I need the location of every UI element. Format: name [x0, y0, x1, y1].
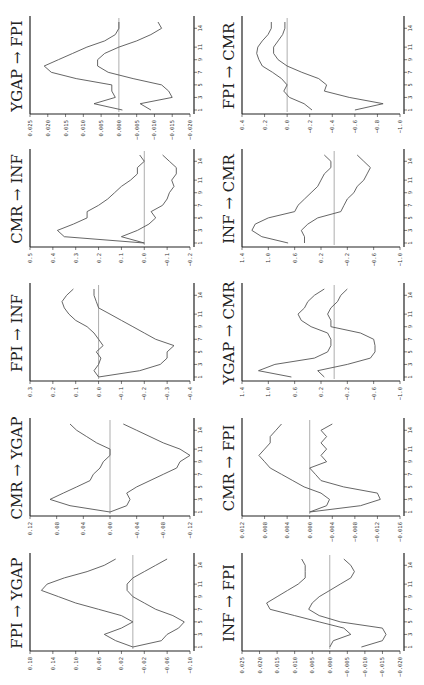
value-tick-label: −0.3: [164, 387, 170, 400]
irf-upper-band: [50, 424, 110, 512]
period-tick-label: 7: [197, 338, 203, 341]
panel-title: YGAP → CMR: [220, 281, 238, 386]
period-tick-label: 5: [407, 620, 413, 623]
period-tick-label: 14: [407, 24, 413, 31]
irf-panel: FPI → YGAP0.180.140.100.060.02−0.02−0.06…: [8, 553, 203, 674]
value-tick-label: 0.2: [262, 120, 268, 130]
period-tick-label: 9: [197, 58, 203, 61]
value-tick-label: 0.12: [27, 522, 33, 535]
value-tick-label: −0.015: [169, 120, 175, 140]
value-tick-label: 0.6: [292, 253, 298, 263]
period-tick-label: 9: [197, 595, 203, 598]
period-tick-label: 11: [407, 311, 413, 318]
period-tick-label: 5: [197, 620, 203, 623]
period-tick-label: 9: [407, 325, 413, 328]
value-tick-label: 0.00: [107, 522, 113, 535]
irf-panel: CMR → YGAP0.120.080.040.00−0.04−0.08−0.1…: [8, 416, 203, 538]
period-tick-label: 5: [197, 216, 203, 219]
value-tick-label: 0.1: [118, 253, 124, 263]
period-tick-label: 14: [407, 426, 413, 433]
period-tick-label: 9: [407, 460, 413, 463]
value-tick-label: −0.012: [374, 522, 380, 542]
value-tick-label: −0.010: [151, 120, 157, 140]
period-tick-label: 7: [407, 71, 413, 74]
period-tick-label: 3: [197, 229, 203, 232]
period-tick-label: 3: [407, 229, 413, 232]
irf-lower-band: [318, 289, 375, 377]
irf-panel: CMR → FPI0.0120.0080.0040.000−0.004−0.00…: [220, 418, 413, 542]
period-tick-label: 14: [197, 561, 203, 568]
value-tick-label: 1.0: [265, 253, 271, 263]
period-tick-label: 11: [197, 311, 203, 318]
period-tick-label: 14: [197, 291, 203, 298]
irf-upper-band: [267, 559, 351, 647]
value-tick-label: −0.020: [397, 657, 403, 677]
value-tick-label: 0.005: [309, 657, 315, 674]
value-tick-label: −0.6: [352, 120, 358, 133]
period-tick-label: 1: [407, 108, 413, 111]
period-tick-label: 1: [197, 645, 203, 648]
value-tick-label: 0.2: [318, 253, 324, 263]
irf-upper-band: [259, 289, 331, 377]
period-tick-label: 14: [197, 426, 203, 433]
period-tick-label: 1: [197, 108, 203, 111]
value-tick-label: −0.2: [344, 253, 350, 266]
period-tick-label: 11: [407, 581, 413, 588]
period-tick-label: 11: [197, 446, 203, 453]
period-tick-label: 1: [197, 375, 203, 378]
value-tick-label: 0.025: [27, 120, 33, 137]
period-tick-label: 14: [407, 157, 413, 164]
period-tick-label: 7: [197, 473, 203, 476]
value-tick-label: −1.0: [397, 120, 403, 133]
period-tick-label: 3: [407, 96, 413, 99]
value-tick-label: 0.1: [73, 387, 79, 397]
value-tick-label: 0.000: [116, 120, 122, 137]
irf-panel: INF → FPI0.0250.0200.0150.0100.0050.000−…: [220, 553, 413, 677]
period-tick-label: 5: [407, 485, 413, 488]
value-tick-label: 0.0: [284, 120, 290, 130]
value-tick-label: −0.008: [352, 522, 358, 542]
irf-lower-band: [94, 289, 174, 377]
period-tick-label: 3: [197, 96, 203, 99]
period-tick-label: 14: [407, 291, 413, 298]
period-tick-label: 5: [407, 83, 413, 86]
irf-panel: CMR → INF0.50.40.30.20.10.0−0.1−0.213579…: [8, 149, 203, 266]
period-tick-label: 1: [407, 241, 413, 244]
period-tick-label: 7: [197, 608, 203, 611]
value-tick-label: −0.06: [164, 657, 170, 674]
period-tick-label: 9: [407, 191, 413, 194]
irf-lower-band: [121, 155, 176, 243]
panel-title: YGAP → FPI: [8, 20, 26, 112]
value-tick-label: 0.08: [54, 522, 60, 535]
irf-panel: YGAP → FPI0.0250.0200.0150.0100.0050.000…: [8, 16, 203, 140]
irf-lower-band: [309, 559, 386, 647]
value-tick-label: 1.4: [239, 386, 245, 397]
value-tick-label: 0.2: [96, 253, 102, 263]
period-tick-label: 11: [407, 446, 413, 453]
irf-upper-band: [41, 559, 132, 647]
value-tick-label: 0.015: [63, 120, 69, 137]
value-tick-label: 0.3: [73, 253, 79, 263]
period-tick-label: 7: [407, 338, 413, 341]
panel-title: INF → FPI: [220, 564, 238, 642]
value-tick-label: −1.0: [397, 253, 403, 266]
value-tick-label: 0.010: [80, 120, 86, 137]
value-tick-label: 0.3: [27, 387, 33, 397]
value-tick-label: 0.2: [318, 387, 324, 397]
irf-upper-band: [252, 155, 331, 243]
value-tick-label: −0.016: [397, 522, 403, 542]
value-tick-label: 0.010: [292, 657, 298, 674]
period-tick-label: 7: [407, 608, 413, 611]
period-tick-label: 3: [197, 633, 203, 636]
value-tick-label: −0.020: [187, 120, 193, 140]
value-tick-label: −0.2: [141, 387, 147, 400]
period-tick-label: 3: [407, 363, 413, 366]
value-tick-label: 0.015: [274, 657, 280, 674]
value-tick-label: −0.1: [118, 387, 124, 400]
value-tick-label: 0.02: [118, 657, 124, 670]
impulse-response-figure: YGAP → FPI0.0250.0200.0150.0100.0050.000…: [0, 0, 424, 685]
irf-panel: YGAP → CMR1.41.00.60.2−0.2−0.6−1.0135791…: [220, 281, 413, 400]
value-tick-label: −0.6: [371, 387, 377, 400]
value-tick-label: −0.4: [329, 119, 335, 133]
value-tick-label: 0.04: [80, 521, 86, 535]
